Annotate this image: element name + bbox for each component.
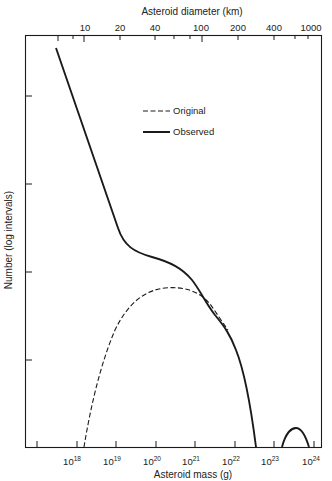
- top-axis-ticks: [58, 36, 308, 43]
- observed-curve: [56, 48, 256, 447]
- bottom-tick-label: 1021: [182, 455, 200, 467]
- plot-frame: [26, 36, 322, 448]
- observed-large-body-bump: [282, 428, 309, 447]
- bottom-axis-title: Asteroid mass (g): [154, 469, 232, 480]
- top-tick-label: 20: [115, 22, 126, 33]
- top-tick-label: 1000: [300, 22, 321, 33]
- legend-label-original: Original: [173, 105, 206, 116]
- top-tick-label: 100: [193, 22, 209, 33]
- original-curve: [84, 288, 228, 447]
- left-axis-ticks: [26, 96, 33, 360]
- bottom-tick-label: 1023: [261, 455, 279, 467]
- top-tick-label: 400: [266, 22, 282, 33]
- bottom-axis-ticks: [37, 441, 314, 448]
- top-axis-title: Asteroid diameter (km): [141, 6, 242, 17]
- bottom-tick-label: 1018: [63, 455, 81, 467]
- top-tick-label: 10: [80, 22, 91, 33]
- asteroid-mass-distribution-chart: Asteroid diameter (km) 10 20 40 100 200 …: [0, 0, 332, 481]
- top-tick-label: 40: [150, 22, 161, 33]
- top-tick-label: 200: [230, 22, 246, 33]
- bottom-tick-labels: 1018 1019 1020 1021 1022 1023 1024: [63, 455, 320, 467]
- top-tick-labels: 10 20 40 100 200 400 1000: [80, 22, 322, 33]
- bottom-tick-label: 1024: [302, 455, 320, 467]
- legend: Original Observed: [143, 105, 214, 137]
- bottom-tick-label: 1020: [143, 455, 161, 467]
- legend-label-observed: Observed: [173, 126, 214, 137]
- bottom-tick-label: 1022: [222, 455, 240, 467]
- y-axis-title: Number (log intervals): [3, 191, 14, 289]
- bottom-tick-label: 1019: [103, 455, 121, 467]
